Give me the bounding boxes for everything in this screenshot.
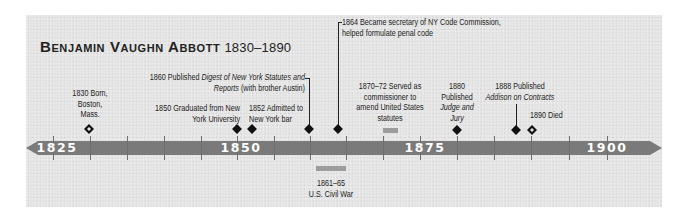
tick-1860	[310, 136, 311, 160]
connector-1860	[309, 78, 310, 128]
timeline-title: Benjamin Vaughn Abbott1830–1890	[40, 38, 291, 55]
axis-label-1900: 1900	[587, 141, 628, 155]
title-years: 1830–1890	[224, 40, 291, 55]
timeline-bar	[38, 141, 650, 155]
tick-1840	[164, 136, 165, 160]
event-1864-label: 1864 Became secretary of NY Code Commiss…	[342, 17, 548, 38]
context-civil-war-label: 1861–65 U.S. Civil War	[301, 178, 361, 199]
title-name: Benjamin Vaughn Abbott	[40, 38, 220, 55]
event-1870-72-label: 1870–72 Served as commissioner to amend …	[356, 81, 425, 123]
tick-1895	[569, 136, 570, 160]
open-diamond-icon	[84, 124, 94, 134]
axis-label-1825: 1825	[37, 141, 78, 155]
event-1852-label: 1852 Admitted to New York bar	[249, 103, 318, 124]
event-1888-label: 1888 Published Addison on Contracts	[477, 81, 563, 102]
tick-1830	[90, 136, 91, 160]
axis-label-1875: 1875	[405, 141, 446, 155]
event-1830-label: 1830 Born, Boston, Mass.	[64, 88, 116, 120]
event-1890-label: 1890 Died	[530, 110, 573, 121]
tick-1835	[127, 136, 128, 160]
axis-label-1850: 1850	[221, 141, 262, 155]
tick-1890	[531, 136, 532, 160]
tick-1870	[383, 136, 384, 160]
range-bar-civil-war	[316, 166, 346, 171]
tick-1865	[346, 136, 347, 160]
event-1880-label: 1880 Published Judge and Jury	[436, 81, 479, 123]
tick-1880	[457, 136, 458, 160]
tick-1855	[274, 136, 275, 160]
open-diamond-icon	[527, 125, 537, 135]
timeline-arrow-right-icon	[650, 141, 662, 155]
connector-1864	[338, 22, 339, 128]
range-bar-1870-72	[383, 128, 398, 133]
event-1850-label: 1850 Graduated from New York University	[137, 103, 240, 124]
tick-1845	[201, 136, 202, 160]
tick-1885	[494, 136, 495, 160]
event-1860-label: 1860 Published Digest of New York Statut…	[129, 72, 305, 93]
